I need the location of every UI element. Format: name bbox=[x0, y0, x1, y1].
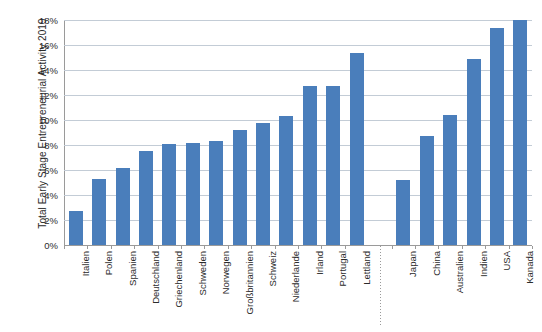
bar bbox=[92, 179, 106, 245]
bar bbox=[116, 168, 130, 246]
x-tick-label: Schweden bbox=[197, 251, 208, 295]
x-tick-mark bbox=[204, 246, 205, 249]
bars-layer bbox=[64, 20, 532, 245]
bar bbox=[350, 53, 364, 246]
bar bbox=[209, 141, 223, 245]
x-tick-mark bbox=[134, 246, 135, 249]
y-tick-label: 16% bbox=[14, 40, 58, 51]
x-tick-label: Schweiz bbox=[267, 251, 278, 286]
bar bbox=[69, 211, 83, 245]
y-tick-label: 14% bbox=[14, 65, 58, 76]
x-tick-label: Niederlande bbox=[290, 251, 301, 302]
x-tick-mark bbox=[181, 246, 182, 249]
x-tick-label: Japan bbox=[407, 251, 418, 277]
x-tick-label: Lettland bbox=[361, 251, 372, 285]
x-tick-mark bbox=[321, 246, 322, 249]
y-tick-label: 8% bbox=[14, 140, 58, 151]
y-tick-label: 10% bbox=[14, 115, 58, 126]
x-tick-label: Norwegen bbox=[220, 251, 231, 294]
x-tick-mark bbox=[87, 246, 88, 249]
x-tick-label: Kanada bbox=[524, 251, 535, 284]
x-tick-mark bbox=[438, 246, 439, 249]
bar bbox=[186, 143, 200, 246]
bar-chart: Total Early Stage Entrepreneurial Activi… bbox=[0, 0, 542, 332]
x-tick-label: Portugal bbox=[337, 251, 348, 286]
y-tick-label: 4% bbox=[14, 190, 58, 201]
x-tick-mark bbox=[509, 246, 510, 249]
x-tick-mark bbox=[64, 246, 65, 249]
x-tick-label: Italien bbox=[80, 251, 91, 276]
y-tick-label: 12% bbox=[14, 90, 58, 101]
y-tick-label: 0% bbox=[14, 240, 58, 251]
x-tick-mark bbox=[158, 246, 159, 249]
group-divider bbox=[380, 246, 381, 325]
x-tick-mark bbox=[532, 246, 533, 249]
x-tick-mark bbox=[392, 246, 393, 249]
bar bbox=[303, 86, 317, 245]
y-tick-label: 18% bbox=[14, 15, 58, 26]
x-tick-mark bbox=[345, 246, 346, 249]
x-tick-label: Irland bbox=[314, 251, 325, 275]
bar bbox=[279, 116, 293, 245]
x-tick-label: China bbox=[431, 251, 442, 276]
x-tick-label: Spanien bbox=[127, 251, 138, 286]
bar bbox=[256, 123, 270, 246]
x-tick-mark bbox=[462, 246, 463, 249]
bar bbox=[490, 28, 504, 246]
x-tick-label: Deutschland bbox=[150, 251, 161, 304]
y-tick-label: 2% bbox=[14, 215, 58, 226]
x-tick-label: Australien bbox=[454, 251, 465, 293]
x-tick-mark bbox=[111, 246, 112, 249]
bar bbox=[139, 151, 153, 245]
y-axis-ticks: 0%2%4%6%8%10%12%14%16%18% bbox=[8, 20, 58, 245]
y-tick-label: 6% bbox=[14, 165, 58, 176]
bar bbox=[420, 136, 434, 245]
x-tick-mark bbox=[298, 246, 299, 249]
bar bbox=[467, 59, 481, 245]
bar bbox=[513, 20, 527, 245]
bar bbox=[233, 130, 247, 245]
bar bbox=[326, 86, 340, 245]
x-tick-label: Polen bbox=[103, 251, 114, 275]
x-tick-label: Griechenland bbox=[173, 251, 184, 308]
bar bbox=[396, 180, 410, 245]
x-tick-label: USA bbox=[501, 251, 512, 271]
x-tick-label: Großbritannien bbox=[244, 251, 255, 314]
x-tick-mark bbox=[251, 246, 252, 249]
x-tick-mark bbox=[275, 246, 276, 249]
x-tick-label: Indien bbox=[478, 251, 489, 277]
x-tick-mark bbox=[228, 246, 229, 249]
x-tick-mark bbox=[415, 246, 416, 249]
bar bbox=[443, 115, 457, 245]
bar bbox=[162, 144, 176, 245]
x-tick-mark bbox=[485, 246, 486, 249]
